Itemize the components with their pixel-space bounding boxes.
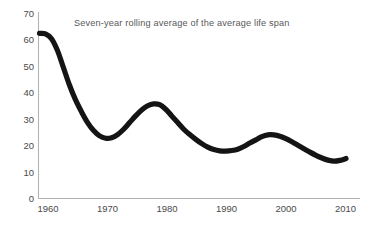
x-tick-label-2010: 2010 <box>335 203 356 214</box>
y-tick-label-10: 10 <box>23 167 34 178</box>
y-tick-label-70: 70 <box>23 8 34 19</box>
y-tick-label-40: 40 <box>23 87 34 98</box>
y-tick-label-0: 0 <box>29 193 34 204</box>
y-tick-label-20: 20 <box>23 140 34 151</box>
line-chart: Seven-year rolling average of the averag… <box>0 0 368 232</box>
chart-page: Seven-year rolling average of the averag… <box>0 0 368 232</box>
chart-title: Seven-year rolling average of the averag… <box>74 18 290 28</box>
y-tick-label-30: 30 <box>23 114 34 125</box>
x-tick-label-1990: 1990 <box>216 203 237 214</box>
x-tick-label-1960: 1960 <box>37 203 58 214</box>
x-tick-label-2000: 2000 <box>275 203 296 214</box>
axis-lines <box>39 12 361 199</box>
data-line-life-span <box>40 33 347 161</box>
x-tick-label-1970: 1970 <box>97 203 118 214</box>
y-tick-label-50: 50 <box>23 61 34 72</box>
y-tick-label-60: 60 <box>23 34 34 45</box>
x-tick-label-1980: 1980 <box>156 203 177 214</box>
